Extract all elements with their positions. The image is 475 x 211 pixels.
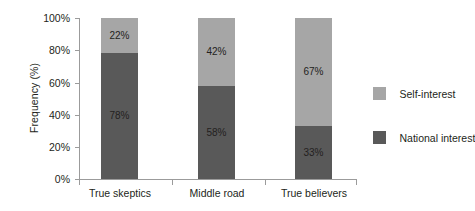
- y-axis-title: Frequency (%): [28, 18, 40, 178]
- x-axis-category-label: True believers: [254, 187, 374, 199]
- y-tick-40: [75, 115, 80, 116]
- x-axis-line: [79, 179, 357, 180]
- y-tick-label-80: 80%: [28, 44, 70, 56]
- segment-self-interest[interactable]: 67%: [295, 18, 332, 126]
- y-axis-line: [79, 18, 80, 180]
- x-tick-2: [265, 180, 266, 185]
- segment-value-label: 58%: [198, 126, 235, 140]
- y-tick-20: [75, 147, 80, 148]
- bar-true-believers[interactable]: 67% 33%: [295, 18, 332, 179]
- y-tick-100: [75, 18, 80, 19]
- segment-value-label: 78%: [101, 109, 138, 123]
- legend-label: National interest: [399, 132, 475, 144]
- legend-swatch-icon: [373, 131, 386, 144]
- legend-label: Self-interest: [399, 88, 455, 100]
- y-tick-label-0-wrap: 0%: [28, 173, 70, 185]
- y-tick-label-80-wrap: 80%: [28, 44, 70, 56]
- legend: Self-interest National interest: [373, 84, 475, 172]
- y-tick-label-20-wrap: 20%: [28, 141, 70, 153]
- y-tick-80: [75, 50, 80, 51]
- y-tick-label-60: 60%: [28, 77, 70, 89]
- y-tick-60: [75, 83, 80, 84]
- segment-value-label: 67%: [295, 65, 332, 79]
- segment-self-interest[interactable]: 42%: [198, 18, 235, 86]
- y-tick-label-100: 100%: [28, 12, 70, 24]
- y-tick-label-100-wrap: 100%: [28, 12, 70, 24]
- segment-national-interest[interactable]: 78%: [101, 53, 138, 179]
- x-tick-1: [172, 180, 173, 185]
- segment-self-interest[interactable]: 22%: [101, 18, 138, 53]
- legend-item-national-interest[interactable]: National interest: [373, 128, 475, 142]
- legend-item-self-interest[interactable]: Self-interest: [373, 84, 475, 98]
- segment-national-interest[interactable]: 58%: [198, 86, 235, 179]
- x-tick-right: [356, 180, 357, 185]
- y-tick-label-40: 40%: [28, 109, 70, 121]
- y-tick-label-20: 20%: [28, 141, 70, 153]
- x-tick-left: [79, 180, 80, 185]
- segment-value-label: 22%: [101, 29, 138, 43]
- segment-value-label: 33%: [295, 146, 332, 160]
- bar-middle-road[interactable]: 42% 58%: [198, 18, 235, 179]
- y-tick-label-60-wrap: 60%: [28, 77, 70, 89]
- y-tick-label-40-wrap: 40%: [28, 109, 70, 121]
- y-tick-label-0: 0%: [28, 173, 70, 185]
- bar-true-skeptics[interactable]: 22% 78%: [101, 18, 138, 179]
- segment-national-interest[interactable]: 33%: [295, 126, 332, 179]
- segment-value-label: 42%: [198, 45, 235, 59]
- legend-swatch-icon: [373, 87, 386, 100]
